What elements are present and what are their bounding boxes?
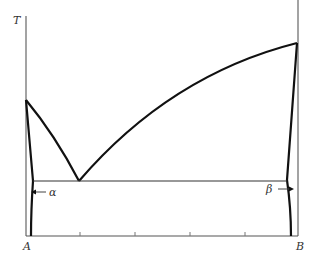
component-b-label: B <box>295 240 304 253</box>
liquidus-left <box>26 100 79 181</box>
beta-marker <box>278 187 294 192</box>
solidus-alpha <box>26 100 33 236</box>
y-axis-label: T <box>13 14 22 27</box>
beta-label: β <box>265 183 272 196</box>
liquidus-right <box>79 43 297 181</box>
alpha-label: α <box>49 186 57 199</box>
phase-diagram: α β T A B <box>0 0 316 261</box>
component-a-label: A <box>22 240 31 253</box>
solidus-beta <box>287 43 297 236</box>
